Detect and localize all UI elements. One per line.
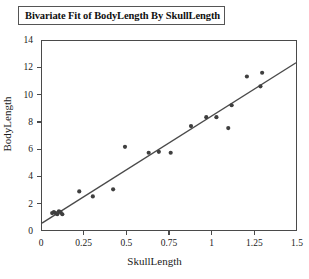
x-tick-label: 0.5 [120, 238, 132, 248]
scatter-point [230, 103, 234, 107]
x-tick-label: 1 [209, 238, 214, 248]
x-tick-label: 0 [39, 238, 44, 248]
scatter-point [60, 212, 64, 216]
y-tick-label: 6 [8, 144, 33, 154]
x-tick-label: 1.5 [291, 238, 303, 248]
x-tick-mark [83, 231, 84, 235]
chart-title-box: Bivariate Fit of BodyLength By SkullLeng… [18, 6, 225, 25]
x-tick-mark [126, 231, 127, 235]
y-tick-label: 4 [8, 171, 33, 181]
scatter-point [258, 84, 262, 88]
x-tick-mark [211, 231, 212, 235]
x-tick-mark [168, 231, 169, 235]
x-tick-mark [254, 231, 255, 235]
x-axis-label: SkullLength [0, 255, 309, 267]
y-tick-label: 10 [8, 90, 33, 100]
scatter-point [214, 115, 218, 119]
scatter-point [91, 194, 95, 198]
scatter-point [157, 150, 161, 154]
x-tick-label: 0.25 [75, 238, 92, 248]
scatter-point [226, 126, 230, 130]
scatter-point [111, 187, 115, 191]
scatter-point [245, 74, 249, 78]
scatter-point [123, 145, 127, 149]
y-tick-label: 0 [8, 226, 33, 236]
y-tick-label: 2 [8, 199, 33, 209]
bivariate-fit-chart: Bivariate Fit of BodyLength By SkullLeng… [0, 0, 309, 279]
scatter-point [189, 124, 193, 128]
scatter-point [260, 71, 264, 75]
scatter-point [204, 115, 208, 119]
page-title: Bivariate Fit of BodyLength By SkullLeng… [25, 10, 220, 21]
y-tick-label: 14 [8, 35, 33, 45]
x-tick-label: 1.25 [246, 238, 263, 248]
scatter-point [147, 151, 151, 155]
y-tick-label: 12 [8, 62, 33, 72]
plot-area [41, 40, 297, 231]
scatter-point [77, 189, 81, 193]
scatter-point [169, 151, 173, 155]
scatter-points-layer [42, 41, 296, 230]
x-tick-label: 0.75 [161, 238, 178, 248]
y-tick-label: 8 [8, 117, 33, 127]
